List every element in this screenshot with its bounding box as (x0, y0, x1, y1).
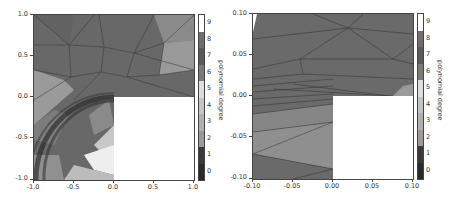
right-ytick-mark (249, 13, 252, 14)
left-ytick: -1.0 (4, 174, 28, 182)
right-ytick-mark (249, 95, 252, 96)
left-xtick: 1.0 (178, 183, 208, 191)
left-cbar-tick: 4 (207, 101, 211, 109)
left-cbar-tick: 6 (207, 68, 211, 76)
left-ytick-mark (30, 55, 33, 56)
right-cbar-tick: 2 (426, 133, 430, 141)
left-ytick: -0.5 (4, 133, 28, 141)
left-ytick-mark (30, 14, 33, 15)
left-xtick: 0.5 (138, 183, 168, 191)
right-cbar-tick: 1 (426, 149, 430, 157)
right-cbar-tick: 7 (426, 50, 430, 58)
right-ytick: -0.05 (223, 132, 247, 140)
right-cbar-tick: 3 (426, 116, 430, 124)
left-colorbar (198, 14, 205, 181)
right-ytick-mark (249, 136, 252, 137)
right-ytick: 0.05 (223, 50, 247, 58)
right-cbar-tick: 4 (426, 100, 430, 108)
right-colorbar (417, 13, 424, 180)
left-mesh-svg (34, 15, 194, 180)
left-ytick-mark (30, 96, 33, 97)
left-xtick: -0.5 (58, 183, 88, 191)
left-cbar-tick: 5 (207, 84, 211, 92)
right-cbar-tick: 9 (426, 17, 430, 25)
right-ytick: 0.10 (223, 9, 247, 17)
left-cbar-tick: 9 (207, 18, 211, 26)
right-xtick: 0.00 (317, 182, 347, 190)
right-cbar-tick: 5 (426, 83, 430, 91)
left-cbar-tick: 7 (207, 51, 211, 59)
left-mesh-plot (33, 14, 195, 181)
right-xtick: -0.10 (237, 182, 267, 190)
left-cbar-tick: 3 (207, 117, 211, 125)
left-cbar-tick: 8 (207, 35, 211, 43)
left-cbar-tick: 0 (207, 167, 211, 175)
right-xtick: -0.05 (277, 182, 307, 190)
right-cbar-label: polynomial degree (436, 60, 444, 121)
right-xtick: 0.05 (357, 182, 387, 190)
left-ytick: 1.0 (4, 10, 28, 18)
right-cbar-tick: 8 (426, 34, 430, 42)
right-xtick: 0.10 (397, 182, 427, 190)
right-cbar-tick: 6 (426, 67, 430, 75)
left-xtick: -1.0 (18, 183, 48, 191)
left-cbar-tick: 1 (207, 150, 211, 158)
right-ytick: -0.10 (223, 173, 247, 181)
right-mesh-plot (252, 13, 414, 180)
left-xtick: 0.0 (98, 183, 128, 191)
right-cbar-tick: 0 (426, 166, 430, 174)
left-ytick: 0.0 (4, 92, 28, 100)
right-ytick: 0.00 (223, 91, 247, 99)
right-mesh-svg (253, 14, 413, 179)
left-ytick: 0.5 (4, 51, 28, 59)
left-cbar-tick: 2 (207, 134, 211, 142)
left-ytick-mark (30, 137, 33, 138)
right-ytick-mark (249, 54, 252, 55)
